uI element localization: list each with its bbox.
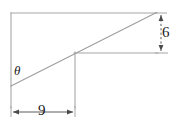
height-dimension-label: 6 [162,25,170,40]
hypotenuse-line [11,13,157,86]
angle-label-theta: θ [14,64,20,77]
base-dimension-label: 9 [38,103,46,118]
triangle-outline [11,13,158,108]
geometry-diagram-svg [0,0,173,130]
geometry-figure: θ 9 6 [0,0,173,130]
